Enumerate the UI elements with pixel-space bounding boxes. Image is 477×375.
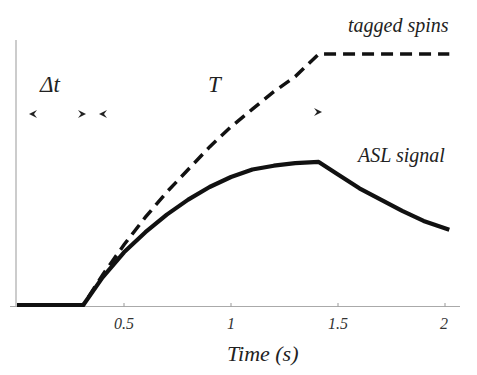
- delta-t-label: Δt: [40, 72, 60, 98]
- arrowhead-left-icon: [29, 110, 37, 118]
- x-tick-label: 1.5: [328, 315, 348, 333]
- asl-signal-line: [17, 162, 449, 305]
- x-tick-label: 0.5: [114, 315, 134, 333]
- arrowhead-right-icon: [314, 108, 322, 116]
- tagged-spins-label: tagged spins: [348, 14, 449, 37]
- x-tick-label: 2: [440, 315, 448, 333]
- chart-canvas: [0, 0, 477, 375]
- arrowhead-left-icon: [99, 110, 107, 118]
- tagged-spins-line: [17, 54, 449, 305]
- x-tick-label: 1: [227, 315, 235, 333]
- T-arrowheads: [99, 108, 322, 118]
- x-axis-title: Time (s): [227, 341, 299, 367]
- T-label: T: [208, 72, 221, 98]
- arrowhead-right-icon: [78, 110, 86, 118]
- delta-t-arrowheads: [29, 110, 86, 118]
- asl-signal-label: ASL signal: [358, 144, 445, 167]
